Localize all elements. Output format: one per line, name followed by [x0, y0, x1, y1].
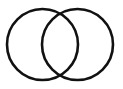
venn-diagram — [0, 0, 123, 89]
